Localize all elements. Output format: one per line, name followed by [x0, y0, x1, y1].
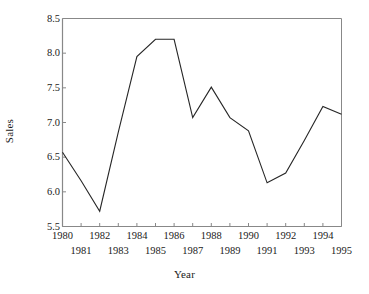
plot-area [0, 0, 369, 294]
sales-data-line [63, 39, 342, 211]
line-chart-figure: Sales 5.56.06.57.07.58.08.5 198019811982… [0, 0, 369, 294]
x-axis-title: Year [0, 268, 369, 280]
axis-frame [63, 19, 342, 227]
tick-marks [63, 19, 342, 227]
